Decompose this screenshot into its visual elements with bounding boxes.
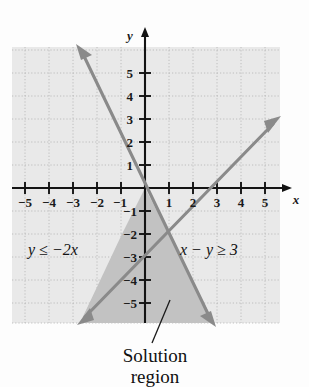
caption-line-1: Solution: [123, 345, 188, 366]
y-axis-label: y: [125, 28, 133, 43]
x-axis-arrowhead: [282, 184, 292, 192]
left-inequality-label: y ≤ −2x: [26, 241, 78, 259]
y-tick-label-3: 3: [127, 112, 134, 127]
x-tick-label-4: 4: [238, 195, 245, 210]
x-tick-label-5: 5: [262, 195, 269, 210]
y-tick-label-5: 5: [127, 66, 134, 81]
y-axis-arrowhead: [141, 27, 149, 37]
y-tick-label--4: −4: [123, 273, 137, 288]
figure-container: y x −5 −4 −3 −2 −1 1 2 3 4 5 5 4 3 2 1 −…: [0, 0, 309, 387]
x-tick-label-1: 1: [166, 195, 173, 210]
x-tick-label--4: −4: [42, 195, 56, 210]
inequality-graph: y x −5 −4 −3 −2 −1 1 2 3 4 5 5 4 3 2 1 −…: [0, 0, 309, 387]
y-tick-label--5: −5: [123, 296, 137, 311]
x-tick-label-2: 2: [190, 195, 197, 210]
right-inequality-label: x − y ≥ 3: [179, 241, 238, 259]
y-tick-label-1: 1: [127, 158, 134, 173]
x-tick-label--3: −3: [66, 195, 80, 210]
x-tick-label--5: −5: [18, 195, 32, 210]
y-tick-label--1: −1: [123, 204, 137, 219]
y-tick-label-2: 2: [127, 135, 134, 150]
y-tick-label--3: −3: [123, 250, 137, 265]
caption-line-2: region: [131, 366, 180, 387]
y-tick-label--2: −2: [123, 227, 137, 242]
x-tick-label-3: 3: [214, 195, 221, 210]
y-tick-label-4: 4: [127, 89, 134, 104]
x-axis-label: x: [292, 192, 300, 207]
x-tick-label--2: −2: [90, 195, 104, 210]
